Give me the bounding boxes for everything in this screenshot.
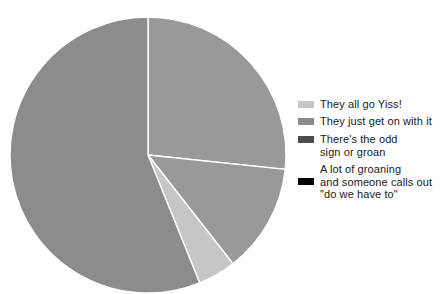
chart-legend: They all go Yiss! They just get on with …: [298, 98, 443, 205]
legend-label-they-all-go-yiss: They all go Yiss!: [320, 98, 402, 111]
pie-chart-svg: [0, 0, 295, 294]
legend-item-they-just-get-on-with-it[interactable]: They just get on with it: [298, 115, 443, 128]
legend-item-theres-the-odd-sign-or-groan[interactable]: There's the odd sign or groan: [298, 133, 443, 158]
legend-swatch-icon-theres-the-odd-sign-or-groan: [298, 136, 314, 143]
legend-label-theres-the-odd-sign-or-groan: There's the odd sign or groan: [320, 133, 398, 158]
legend-item-they-all-go-yiss[interactable]: They all go Yiss!: [298, 98, 443, 111]
pie-chart-plot-area: [0, 0, 295, 294]
legend-swatch-icon-they-just-get-on-with-it: [298, 118, 314, 125]
legend-label-they-just-get-on-with-it: They just get on with it: [320, 115, 432, 128]
legend-item-a-lot-of-groaning[interactable]: A lot of groaning and someone calls out …: [298, 163, 443, 201]
pie-chart-figure: They all go Yiss! They just get on with …: [0, 0, 443, 294]
legend-swatch-icon-a-lot-of-groaning: [298, 178, 314, 185]
pie-slice[interactable]: [148, 17, 286, 169]
legend-label-a-lot-of-groaning: A lot of groaning and someone calls out …: [320, 163, 432, 201]
pie-slice-group: [10, 17, 286, 293]
legend-swatch-icon-they-all-go-yiss: [298, 101, 314, 108]
